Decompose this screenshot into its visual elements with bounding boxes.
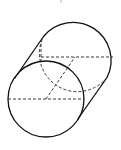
cylinder-diagram	[0, 0, 121, 150]
back-circle-hidden-arc	[39, 37, 107, 92]
back-circle-visible-arc	[44, 22, 112, 77]
